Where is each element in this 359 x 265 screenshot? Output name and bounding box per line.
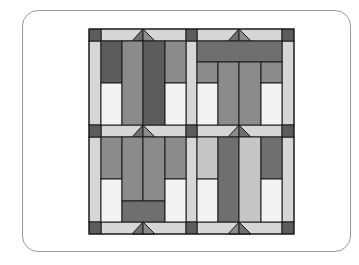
block-top-left [101, 41, 186, 125]
block-bottom-left [101, 137, 186, 222]
quilt-diagram [0, 0, 359, 265]
block-top-right [197, 41, 282, 125]
block-bottom-right [197, 137, 282, 222]
